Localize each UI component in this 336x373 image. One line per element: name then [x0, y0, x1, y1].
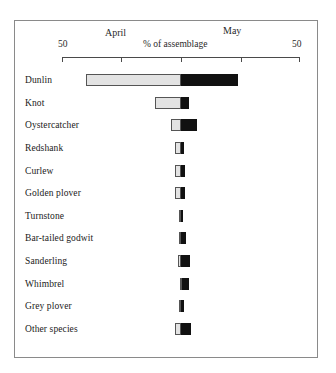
row-label: Redshank [25, 143, 63, 153]
chart-axis-header: April May % of assemblage 50 50 [15, 21, 319, 71]
chart-row: Knot [15, 92, 319, 115]
row-label: Sanderling [25, 256, 67, 266]
axis-tick-2 [181, 57, 182, 62]
row-label: Dunlin [25, 75, 52, 85]
chart-row: Redshank [15, 137, 319, 160]
bar-segment-may [182, 278, 189, 290]
bar-group [175, 187, 185, 199]
row-label: Whimbrel [25, 279, 64, 289]
bar-group [178, 255, 189, 267]
bar-segment-may [181, 300, 184, 312]
bar-segment-april [155, 97, 181, 109]
bar-segment-may [181, 74, 238, 86]
row-label: Bar-tailed godwit [25, 233, 93, 243]
bar-segment-april [171, 119, 181, 131]
row-label: Turnstone [25, 211, 64, 221]
bar-group [175, 323, 190, 335]
chart-row: Curlew [15, 159, 319, 182]
chart-row: Whimbrel [15, 272, 319, 295]
axis-right-end-label: 50 [292, 39, 302, 49]
legend-label-may: May [223, 25, 241, 36]
axis-tick-0 [62, 57, 63, 62]
axis-title: % of assemblage [143, 39, 207, 49]
row-label: Knot [25, 98, 44, 108]
bar-segment-may [181, 97, 189, 109]
chart-row: Sanderling [15, 250, 319, 273]
bar-group [86, 74, 238, 86]
bar-segment-may [181, 232, 186, 244]
chart-row: Grey plover [15, 295, 319, 318]
axis-tick-1 [121, 57, 122, 62]
row-label: Curlew [25, 166, 54, 176]
bar-group [175, 165, 185, 177]
bar-group [179, 300, 185, 312]
chart-rows: DunlinKnotOystercatcherRedshankCurlewGol… [15, 69, 319, 340]
chart-row: Golden plover [15, 182, 319, 205]
bar-group [171, 119, 196, 131]
bar-group [180, 278, 189, 290]
bar-segment-april [86, 74, 181, 86]
bar-segment-may [181, 142, 184, 154]
chart-row: Dunlin [15, 69, 319, 92]
bar-group [155, 97, 189, 109]
axis-tick-4 [299, 57, 300, 62]
bar-group [179, 232, 186, 244]
chart-row: Other species [15, 318, 319, 341]
row-label: Grey plover [25, 301, 72, 311]
axis-left-end-label: 50 [58, 39, 68, 49]
chart-frame: April May % of assemblage 50 50 DunlinKn… [14, 20, 318, 358]
bar-group [179, 210, 184, 222]
row-label: Other species [25, 324, 78, 334]
row-label: Oystercatcher [25, 120, 79, 130]
legend-label-april: April [105, 27, 126, 38]
bar-segment-may [181, 255, 190, 267]
axis-tick-3 [241, 57, 242, 62]
bar-segment-may [181, 210, 183, 222]
row-label: Golden plover [25, 188, 81, 198]
bar-segment-may [181, 187, 185, 199]
chart-row: Turnstone [15, 205, 319, 228]
chart-row: Bar-tailed godwit [15, 227, 319, 250]
bar-segment-may [181, 119, 197, 131]
bar-segment-may [181, 165, 185, 177]
bar-group [175, 142, 184, 154]
bar-segment-may [181, 323, 191, 335]
chart-row: Oystercatcher [15, 114, 319, 137]
